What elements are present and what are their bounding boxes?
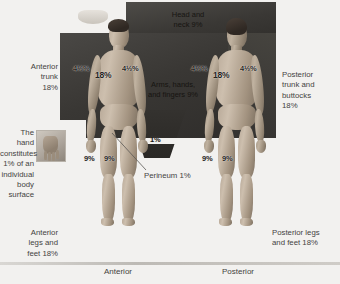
pct-anterior-leg-left: 9% xyxy=(84,154,94,163)
anterior-hair xyxy=(108,19,129,32)
pct-posterior-arm-left: 4½% xyxy=(191,64,208,73)
ground-line xyxy=(0,262,340,265)
hand-finger-3 xyxy=(52,152,55,161)
label-perineum: Perineum 1% xyxy=(144,171,214,181)
posterior-hand-right xyxy=(256,140,266,153)
label-anterior-legs-feet: Anterior legs and feet 18% xyxy=(2,228,58,259)
posterior-forearm-right xyxy=(254,109,265,144)
anterior-foot-left xyxy=(101,218,114,226)
label-arms-hands-fingers: Arms, hands, and fingers 9% xyxy=(138,80,208,100)
anterior-thigh-right xyxy=(120,126,137,178)
anterior-forearm-right xyxy=(136,109,147,144)
anterior-foot-right xyxy=(122,218,135,226)
pct-anterior-leg-right: 9% xyxy=(104,154,114,163)
pct-posterior-arm-right: 4½% xyxy=(240,64,257,73)
posterior-shin-left xyxy=(220,174,233,222)
pct-posterior-leg-left: 9% xyxy=(202,154,212,163)
label-posterior-trunk: Posterior trunk and buttocks 18% xyxy=(282,70,340,112)
pct-posterior-trunk: 18% xyxy=(213,70,229,80)
label-hand-note: The hand constitutes 1% of an individual… xyxy=(0,128,34,201)
posterior-foot-left xyxy=(219,218,232,226)
pct-anterior-arm-left: 4½% xyxy=(73,64,90,73)
caption-anterior: Anterior xyxy=(88,267,148,276)
posterior-thigh-right xyxy=(238,126,255,178)
anterior-forearm-left xyxy=(86,109,97,144)
pct-posterior-leg-right: 9% xyxy=(222,154,232,163)
posterior-forearm-left xyxy=(204,109,215,144)
anterior-shin-right xyxy=(122,174,135,222)
pct-anterior-trunk: 18% xyxy=(95,70,111,80)
diagram-canvas: 4½% 4½% 18% 9% 9% 1% 4½% 4½% 18% 9% 9% H… xyxy=(0,0,340,284)
pct-anterior-arm-right: 4½% xyxy=(122,64,139,73)
label-head-and-neck: Head and neck 9% xyxy=(152,10,224,30)
pct-perineum-marker: 1% xyxy=(150,135,160,144)
anterior-hand-right xyxy=(138,140,148,153)
anterior-thigh-left xyxy=(100,126,117,178)
anterior-brief xyxy=(78,10,108,24)
figure-posterior xyxy=(196,10,278,262)
anterior-hand-left xyxy=(86,140,96,153)
hand-finger-2 xyxy=(48,152,51,161)
caption-posterior: Posterior xyxy=(206,267,270,276)
hand-inset-illustration xyxy=(36,130,66,162)
label-posterior-legs-feet: Posterior legs and feet 18% xyxy=(272,228,338,249)
posterior-hand-left xyxy=(204,140,214,153)
posterior-thigh-left xyxy=(218,126,235,178)
anterior-shin-left xyxy=(102,174,115,222)
hand-finger-1 xyxy=(44,151,47,160)
figure-anterior xyxy=(78,10,160,262)
hand-finger-4 xyxy=(56,150,59,159)
label-anterior-trunk: Anterior trunk 18% xyxy=(2,62,58,93)
posterior-shin-right xyxy=(240,174,253,222)
posterior-hair xyxy=(226,18,247,35)
posterior-foot-right xyxy=(240,218,253,226)
